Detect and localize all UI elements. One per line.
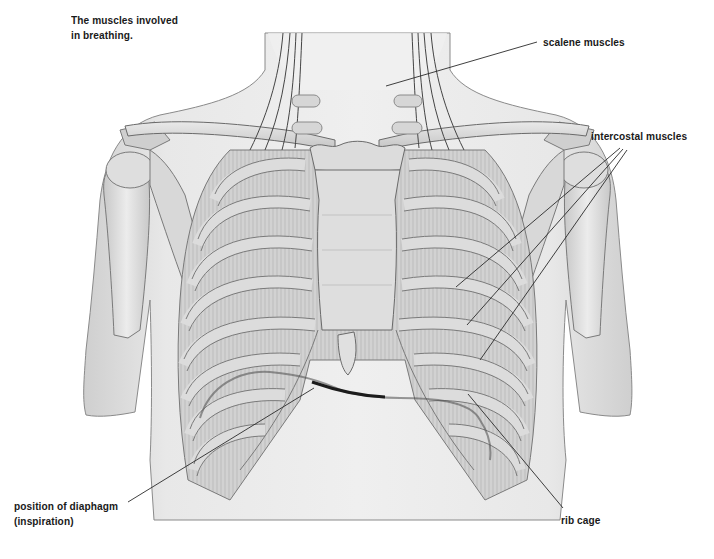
label-scalene-muscles: scalene muscles — [543, 35, 625, 50]
label-intercostal-muscles: intercostal muscles — [591, 129, 687, 144]
diagram-title: The muscles involved in breathing. — [71, 13, 178, 43]
label-diaphragm-line-2: (inspiration) — [14, 514, 118, 529]
diagram-title-line-1: The muscles involved — [71, 13, 178, 28]
diagram-title-line-2: in breathing. — [71, 28, 178, 43]
label-diaphragm-line-1: position of diaphagm — [14, 499, 118, 514]
label-rib-cage: rib cage — [561, 513, 601, 528]
label-diaphragm-position: position of diaphagm (inspiration) — [14, 499, 118, 529]
anatomy-diagram: The muscles involved in breathing. scale… — [0, 0, 714, 559]
chest-illustration — [0, 0, 714, 559]
